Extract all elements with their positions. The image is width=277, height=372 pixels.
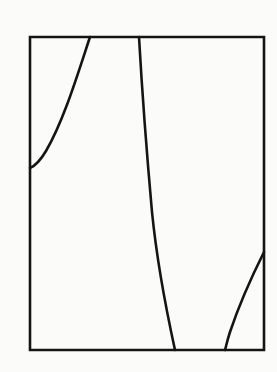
figure-root bbox=[0, 0, 277, 372]
line-drawing-canvas bbox=[0, 0, 277, 372]
